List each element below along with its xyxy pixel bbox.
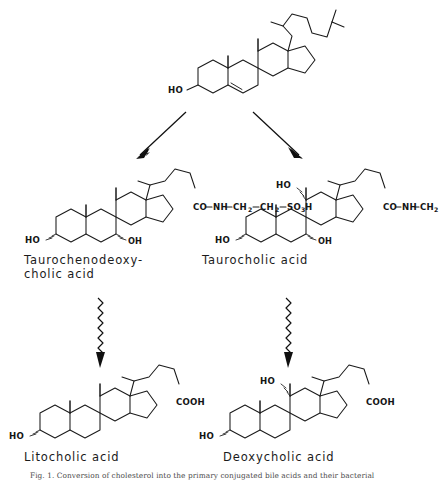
tcdc-co-label: CO xyxy=(193,202,207,212)
tc-c3-hash-wedge xyxy=(236,234,246,240)
arrow-taurocholic-to-deoxycholic xyxy=(284,298,293,368)
arrow-cholesterol-to-taurochenodeoxycholic xyxy=(136,112,186,159)
tc-co-label: CO xyxy=(383,202,397,212)
tc-ch2-a-subscript: 2 xyxy=(434,206,438,213)
litocholic-cooh-label: COOH xyxy=(176,397,205,407)
tcdc-c7-hydroxyl-label: OH xyxy=(128,236,142,246)
arrow-cholesterol-to-taurocholic xyxy=(253,112,303,159)
litocholic-c3-hydroxyl-label: HO xyxy=(9,431,24,441)
deoxycholic-c3-hash-wedge xyxy=(220,430,230,436)
molecule-litocholic-acid: HO COOH xyxy=(9,365,205,441)
tcdc-c3-hydroxyl-label: HO xyxy=(25,235,40,245)
pathway-figure: HO HO xyxy=(0,0,445,482)
deoxycholic-c12-hash-wedge xyxy=(281,384,290,396)
label-taurochenodeoxycholic-acid: Taurochenodeoxy- cholic acid xyxy=(24,253,143,281)
molecule-cholesterol: HO xyxy=(168,10,344,95)
tc-c12-hash-wedge xyxy=(297,188,306,200)
deoxycholic-c3-hydroxyl-label: HO xyxy=(199,431,214,441)
label-taurocholic-acid: Taurocholic acid xyxy=(202,253,308,267)
tc-c12-hydroxyl-label: HO xyxy=(276,180,291,190)
tc-c3-hydroxyl-label: HO xyxy=(215,235,230,245)
tcdc-ch2-a-label: CH xyxy=(233,202,247,212)
label-deoxycholic-acid: Deoxycholic acid xyxy=(223,450,335,464)
label-litocholic-acid: Litocholic acid xyxy=(24,450,120,464)
tc-ch2-a-label: CH xyxy=(420,202,434,212)
tc-c7-hash-wedge xyxy=(306,234,316,240)
tcdc-ch2-a-subscript: 2 xyxy=(248,206,252,213)
tcdc-ch2-b-label: CH xyxy=(260,202,274,212)
cholesterol-c3-hydroxyl-label: HO xyxy=(168,85,183,95)
molecule-deoxycholic-acid: HO HO COOH xyxy=(199,365,395,441)
tcdc-c3-hash-wedge xyxy=(46,234,56,240)
figure-caption: Fig. 1. Conversion of cholesterol into t… xyxy=(30,471,440,480)
deoxycholic-c12-hydroxyl-label: HO xyxy=(260,376,275,386)
tcdc-c7-hash-wedge xyxy=(116,234,126,240)
deoxycholic-cooh-label: COOH xyxy=(366,397,395,407)
litocholic-c3-hash-wedge xyxy=(30,430,40,436)
tc-c7-hydroxyl-label: OH xyxy=(318,236,332,246)
tc-taurine-side-chain: CO NH CH 2 xyxy=(383,202,438,213)
molecule-taurochenodeoxycholic-acid: HO OH CO NH CH 2 CH 2 SO 3 H xyxy=(25,169,312,246)
arrow-taurochenodeoxycholic-to-litocholic xyxy=(96,298,105,368)
